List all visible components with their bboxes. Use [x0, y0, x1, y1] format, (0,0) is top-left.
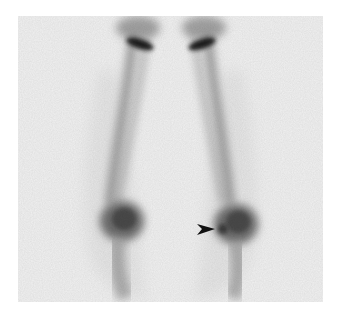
scan-graphic	[18, 16, 323, 302]
bone-scan-image: Anterior bone scintigraphy of both lower…	[18, 16, 323, 302]
image-grain	[18, 16, 323, 302]
